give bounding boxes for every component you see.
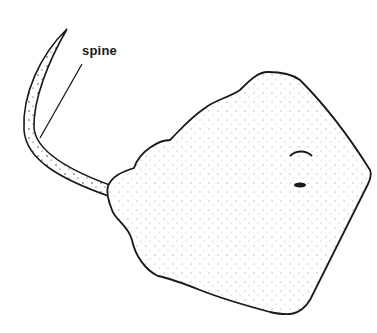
spiracle-mark [294,183,306,188]
body [107,72,371,314]
spine-label: spine [82,43,117,58]
stingray-illustration [0,0,377,333]
spine-leader-line [40,64,82,138]
